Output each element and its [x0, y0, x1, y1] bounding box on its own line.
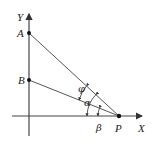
line-AP — [29, 33, 119, 116]
point-A — [27, 31, 31, 35]
geometry-diagram: Y X A B P φ α β — [0, 0, 156, 146]
y-axis-label: Y — [17, 11, 25, 23]
x-axis-label: X — [137, 122, 146, 134]
point-B-label: B — [18, 74, 25, 86]
line-BP — [29, 80, 119, 116]
angle-beta-label: β — [95, 122, 102, 133]
point-B — [27, 78, 31, 82]
angle-alpha-label: α — [84, 97, 91, 108]
point-A-label: A — [16, 27, 24, 39]
point-P — [117, 114, 121, 118]
point-P-label: P — [114, 122, 122, 134]
angle-phi-label: φ — [78, 83, 85, 94]
angle-beta-arc — [98, 108, 100, 116]
